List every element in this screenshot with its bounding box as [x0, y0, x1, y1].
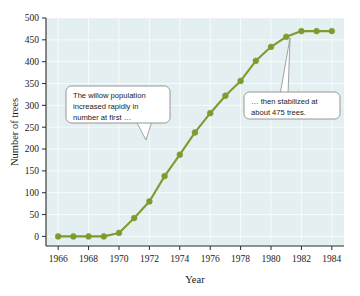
x-axis-ticks: 1966196819701972197419761978198019821984	[49, 246, 342, 264]
y-tick-label: 0	[34, 232, 39, 242]
data-point	[55, 233, 61, 239]
data-point	[253, 58, 259, 64]
data-point	[86, 233, 92, 239]
y-tick-label: 100	[25, 188, 40, 198]
data-point	[146, 199, 152, 205]
data-point	[223, 93, 229, 99]
x-tick-label: 1982	[292, 254, 311, 264]
x-axis-title: Year	[185, 274, 205, 285]
x-tick-label: 1966	[49, 254, 68, 264]
x-tick-label: 1972	[140, 254, 159, 264]
x-tick-label: 1968	[79, 254, 98, 264]
x-tick-label: 1980	[262, 254, 281, 264]
data-point	[101, 233, 107, 239]
y-tick-label: 200	[25, 144, 40, 154]
x-tick-label: 1970	[109, 254, 128, 264]
figure-container: 050100150200250300350400450500 196619681…	[0, 0, 360, 296]
data-point	[131, 215, 137, 221]
data-point	[177, 152, 183, 158]
y-tick-label: 50	[30, 210, 40, 220]
data-point	[283, 34, 289, 40]
y-tick-label: 150	[25, 166, 40, 176]
callout-plateau-line-1: … then stabilized at	[251, 97, 319, 106]
data-point	[238, 78, 244, 84]
y-tick-label: 350	[25, 79, 40, 89]
y-tick-label: 250	[25, 123, 40, 133]
y-tick-label: 400	[25, 57, 40, 67]
data-point	[116, 230, 122, 236]
y-axis-ticks: 050100150200250300350400450500	[25, 13, 46, 241]
callout-plateau-line-2: about 475 trees.	[251, 108, 306, 117]
y-tick-label: 450	[25, 35, 40, 45]
x-tick-label: 1976	[201, 254, 220, 264]
callout-growth-line-2: increased rapidly in	[73, 102, 138, 111]
y-axis-title: Number of trees	[9, 98, 20, 166]
data-point	[207, 110, 213, 116]
y-tick-label: 300	[25, 101, 40, 111]
data-point	[192, 130, 198, 136]
x-tick-label: 1978	[231, 254, 250, 264]
data-point	[314, 28, 320, 34]
x-tick-label: 1974	[170, 254, 189, 264]
x-tick-label: 1984	[322, 254, 341, 264]
callout-growth-line-1: The willow population	[73, 91, 146, 100]
data-point	[162, 173, 168, 179]
data-point	[268, 44, 274, 50]
data-point	[299, 28, 305, 34]
line-chart: 050100150200250300350400450500 196619681…	[0, 0, 360, 296]
data-point	[329, 28, 335, 34]
callout-growth-line-3: number at first …	[73, 113, 131, 122]
y-tick-label: 500	[25, 13, 40, 23]
data-point	[70, 233, 76, 239]
